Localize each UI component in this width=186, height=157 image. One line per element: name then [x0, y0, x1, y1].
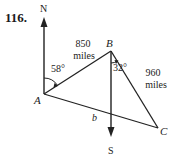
side-bc-value: 960	[146, 67, 161, 78]
point-b-label: B	[106, 37, 113, 49]
arrowhead-up-icon	[41, 17, 48, 27]
side-ab-value: 850	[76, 38, 91, 49]
problem-number: 116.	[5, 10, 27, 25]
point-a-label: A	[33, 94, 41, 106]
arrowhead-down-icon	[108, 127, 115, 137]
bearing-diagram: 116. N S A B C 850 miles 960 miles b 58°…	[0, 0, 186, 157]
north-arrow	[41, 17, 48, 94]
angle-a-label: 58°	[51, 63, 65, 74]
point-c-label: C	[160, 125, 168, 137]
north-label: N	[40, 3, 47, 14]
side-bc-unit: miles	[145, 79, 167, 90]
south-label: S	[108, 145, 114, 156]
angle-b-label: 32°	[113, 62, 127, 73]
side-ab-unit: miles	[73, 50, 95, 61]
side-ac-label: b	[92, 112, 97, 123]
